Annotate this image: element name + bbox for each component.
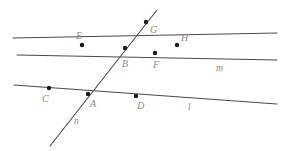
point-A-label: A <box>90 99 96 109</box>
geometry-diagram: mlnGEHBFCAD <box>0 0 288 151</box>
line-l <box>14 85 277 104</box>
point-G-dot <box>144 20 148 24</box>
point-D-dot <box>134 94 138 98</box>
point-B-dot <box>123 46 127 50</box>
line-l-label: l <box>188 103 191 113</box>
line-m <box>17 55 277 60</box>
diagram-canvas <box>0 0 288 151</box>
point-H-dot <box>175 43 179 47</box>
point-C-dot <box>47 86 51 90</box>
point-E-label: E <box>76 31 82 41</box>
point-H-label: H <box>181 33 188 43</box>
point-E-dot <box>80 43 84 47</box>
point-F-label: F <box>153 60 159 70</box>
line-n <box>50 10 157 146</box>
line-m-label: m <box>216 64 223 74</box>
point-F-dot <box>153 51 157 55</box>
point-C-label: C <box>42 94 49 104</box>
line-m-upper <box>13 33 277 38</box>
point-B-label: B <box>122 59 128 69</box>
point-G-label: G <box>150 25 157 35</box>
point-D-label: D <box>137 101 144 111</box>
line-n-label: n <box>74 117 79 127</box>
point-A-dot <box>86 92 90 96</box>
